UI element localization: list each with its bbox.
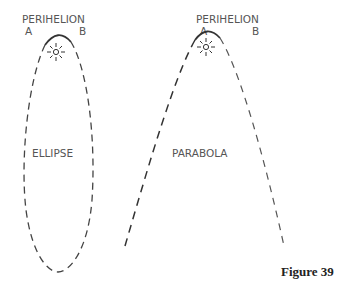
ellipse-point-a-label: A — [25, 25, 33, 37]
orbit-diagram: PERIHELION A B ELLIPSE PERIHELION A B — [0, 0, 345, 288]
parabola-point-b-label: B — [252, 25, 259, 37]
ellipse-perihelion-arc — [45, 35, 71, 45]
parabola-left-branch — [125, 40, 195, 246]
sun-icon — [197, 38, 215, 56]
sun-icon — [47, 43, 65, 61]
figure-caption: Figure 39 — [281, 264, 334, 279]
parabola-label: PARABOLA — [172, 147, 228, 159]
ellipse-label: ELLIPSE — [32, 147, 73, 159]
ellipse-point-b-label: B — [79, 25, 86, 37]
parabola-perihelion-arc — [195, 31, 220, 40]
parabola-right-branch — [220, 38, 284, 246]
ellipse-panel: PERIHELION A B ELLIPSE — [22, 13, 93, 272]
parabola-panel: PERIHELION A B PARABOLA — [125, 13, 284, 246]
ellipse-perihelion-label: PERIHELION — [22, 13, 85, 25]
parabola-perihelion-label: PERIHELION — [196, 13, 259, 25]
